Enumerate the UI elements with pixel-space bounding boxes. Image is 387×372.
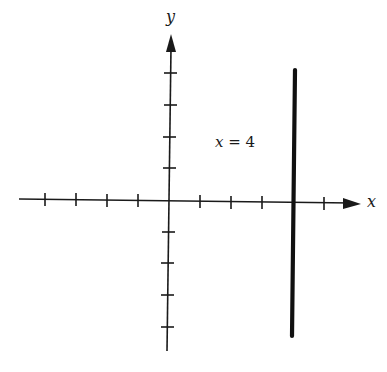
y-axis: [167, 48, 171, 351]
x-axis-arrow-icon: [343, 198, 361, 209]
equation-label: x = 4: [215, 135, 255, 150]
equation-value: = 4: [223, 133, 255, 151]
x-axis: [19, 199, 352, 203]
y-axis-label: y: [166, 9, 175, 25]
axes-graphic: [0, 0, 387, 372]
coordinate-plane-figure: y x x = 4: [0, 0, 387, 372]
y-axis-arrow-icon: [166, 34, 176, 52]
x-axis-label: x: [367, 194, 376, 210]
vertical-line-x-equals-4: [292, 70, 295, 336]
